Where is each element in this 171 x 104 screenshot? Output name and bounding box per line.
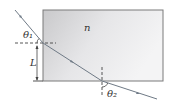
theta2-arc <box>102 83 108 87</box>
theta2-label: θ₂ <box>107 89 117 99</box>
index-label: n <box>84 23 90 33</box>
arrow-down-icon <box>36 77 39 81</box>
theta1-label: θ₁ <box>23 30 33 40</box>
arrow-up-icon <box>36 45 39 49</box>
length-label: L <box>30 58 37 68</box>
theta1-arc <box>37 39 39 44</box>
refraction-diagram <box>0 0 171 104</box>
slab <box>43 10 163 81</box>
